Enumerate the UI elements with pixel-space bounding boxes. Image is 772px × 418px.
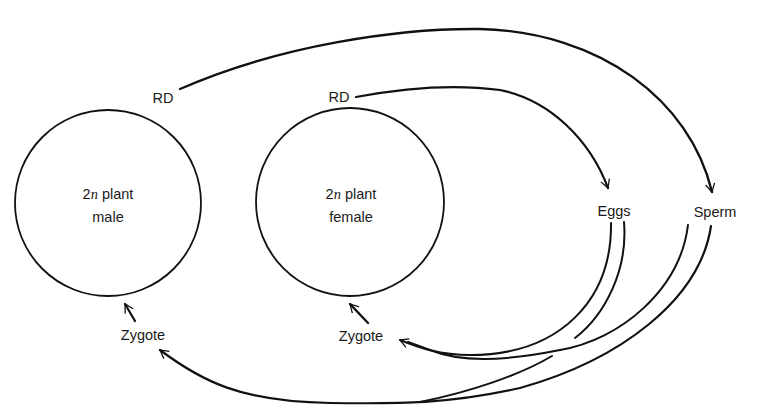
male-plant-label-line2: male	[92, 209, 123, 225]
male-plant-circle	[15, 110, 201, 296]
arrow-eggs-to-zygote-male	[420, 222, 624, 402]
female-plant-label-line2: female	[329, 209, 373, 225]
eggs-label: Eggs	[597, 203, 630, 219]
life-cycle-diagram: 2n plant male 2n plant female RD RD Eggs…	[0, 0, 772, 418]
arrow-rd-female-to-eggs	[356, 87, 608, 188]
sperm-label: Sperm	[694, 204, 737, 220]
rd-male-label: RD	[153, 90, 174, 106]
female-plant-label-line1: 2n plant	[326, 186, 377, 202]
zygote-male-label: Zygote	[121, 327, 165, 343]
arrow-rd-male-to-sperm	[180, 29, 712, 192]
zygote-female-label: Zygote	[339, 328, 383, 344]
rd-female-label: RD	[329, 89, 350, 105]
arrow-zygote-to-female-plant	[350, 304, 368, 323]
arrow-sperm-to-zygote-male	[160, 226, 711, 403]
arrow-sperm-to-zygote-female	[408, 225, 688, 359]
female-plant-circle	[256, 108, 444, 296]
male-plant-label-line1: 2n plant	[83, 186, 134, 202]
arrow-zygote-to-male-plant	[125, 304, 135, 321]
